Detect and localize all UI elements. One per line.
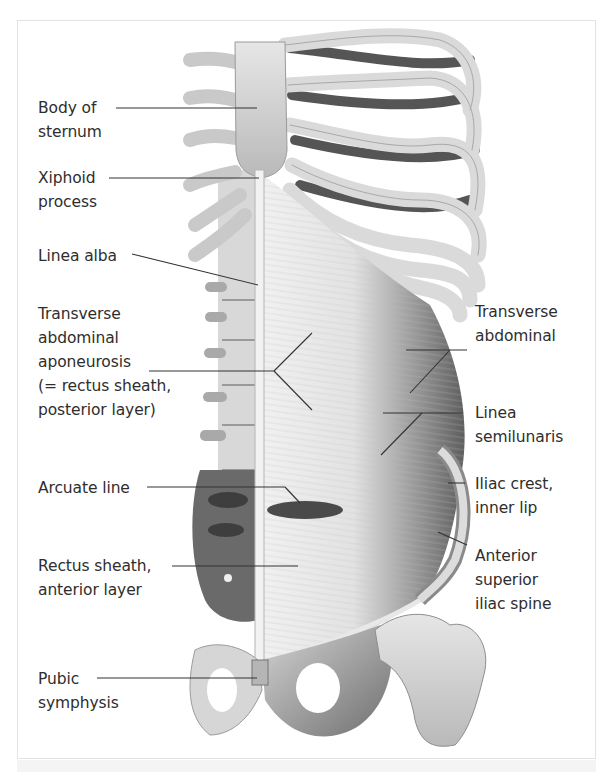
label-linea-semilunaris: Linea semilunaris bbox=[475, 401, 563, 449]
label-pubic-symphysis: Pubic symphysis bbox=[38, 667, 119, 715]
label-iliac-crest-inner-lip: Iliac crest, inner lip bbox=[475, 472, 553, 520]
label-transverse-abdominal-aponeurosis: Transverse abdominal aponeurosis (= rect… bbox=[38, 302, 171, 422]
label-rectus-sheath-anterior-layer: Rectus sheath, anterior layer bbox=[38, 554, 151, 602]
sacrum bbox=[192, 470, 258, 622]
label-xiphoid-process: Xiphoid process bbox=[38, 166, 97, 214]
label-transverse-abdominal: Transverse abdominal bbox=[475, 300, 558, 348]
label-arcuate-line: Arcuate line bbox=[38, 476, 130, 500]
sternum bbox=[235, 42, 287, 178]
linea-alba-band bbox=[255, 170, 264, 670]
label-body-of-sternum: Body of sternum bbox=[38, 96, 102, 144]
femur bbox=[375, 614, 486, 746]
label-linea-alba: Linea alba bbox=[38, 244, 117, 268]
label-anterior-superior-iliac-spine: Anterior superior iliac spine bbox=[475, 544, 551, 616]
